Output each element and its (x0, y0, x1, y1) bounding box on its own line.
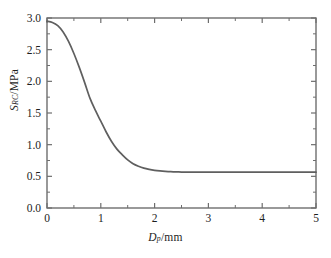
data-series-group (47, 21, 316, 172)
y-axis-title: SRC/MPa (8, 30, 20, 150)
y-tick-label: 1.5 (27, 107, 42, 119)
x-tick-label: 3 (206, 212, 212, 224)
x-tick-label: 4 (259, 212, 265, 224)
y-tick-label: 1.0 (27, 139, 42, 151)
y-axis-major-ticks (47, 18, 316, 208)
data-curve-src (47, 21, 316, 172)
y-axis-title-subscript: RC (11, 95, 20, 105)
x-axis-major-ticks (47, 18, 316, 208)
y-axis-tick-labels: 0.00.51.01.52.02.53.0 (27, 12, 42, 214)
y-axis-title-symbol: S (8, 105, 20, 111)
x-axis-title-symbol: D (148, 231, 157, 243)
chart-plot-svg: 012345 0.00.51.01.52.02.53.0 (0, 0, 331, 258)
x-tick-label: 2 (152, 212, 158, 224)
y-axis-title-unit: /MPa (8, 69, 20, 95)
y-tick-label: 3.0 (27, 12, 42, 24)
y-tick-label: 0.0 (27, 202, 42, 214)
x-axis-minor-ticks (74, 18, 289, 208)
y-tick-label: 0.5 (27, 170, 42, 182)
y-tick-label: 2.5 (27, 44, 42, 56)
y-axis-minor-ticks (47, 34, 316, 192)
x-tick-label: 1 (98, 212, 104, 224)
x-axis-tick-labels: 012345 (44, 212, 319, 224)
x-tick-label: 0 (44, 212, 50, 224)
x-axis-title: Dp/mm (0, 231, 331, 243)
plot-frame (47, 18, 316, 208)
y-tick-label: 2.0 (27, 75, 42, 87)
x-tick-label: 5 (313, 212, 319, 224)
x-axis-title-unit: /mm (161, 231, 183, 243)
chart-figure: 012345 0.00.51.01.52.02.53.0 Dp/mm SRC/M… (0, 0, 331, 258)
